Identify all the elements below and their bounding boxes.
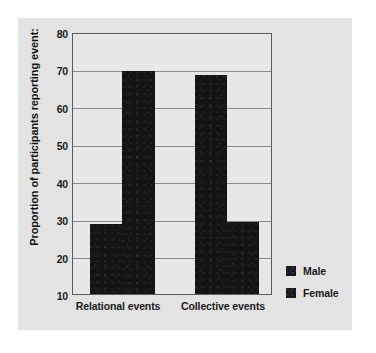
gridline-40: [73, 183, 271, 184]
legend-label-female: Female: [303, 287, 339, 299]
x-category-label-collective-events: Collective events: [173, 300, 273, 312]
chart-legend: Male Female: [286, 262, 339, 306]
gridline-60: [73, 108, 271, 109]
y-tick-label-20: 20: [38, 253, 68, 265]
y-tick-label-50: 50: [38, 140, 68, 152]
y-tick-label-60: 60: [38, 103, 68, 115]
legend-label-male: Male: [303, 265, 326, 277]
y-tick-label-40: 40: [38, 178, 68, 190]
x-category-label-relational-events: Relational events: [68, 300, 168, 312]
figure-canvas: Proportion of participants reporting eve…: [0, 0, 376, 353]
gridline-70: [73, 71, 271, 72]
legend-item-female: Female: [286, 284, 339, 302]
y-tick-label-10: 10: [38, 290, 68, 302]
bar-male-relational-events: [90, 224, 122, 294]
y-tick-label-30: 30: [38, 215, 68, 227]
bar-male-collective-events: [195, 75, 227, 294]
y-tick-label-70: 70: [38, 65, 68, 77]
legend-item-male: Male: [286, 262, 339, 280]
bar-female-relational-events: [122, 71, 155, 294]
legend-swatch-male-icon: [286, 266, 296, 276]
bar-female-collective-events: [227, 222, 259, 294]
gridline-50: [73, 146, 271, 147]
legend-swatch-female-icon: [286, 288, 296, 298]
y-tick-label-80: 80: [38, 28, 68, 40]
plot-area: [72, 33, 272, 295]
